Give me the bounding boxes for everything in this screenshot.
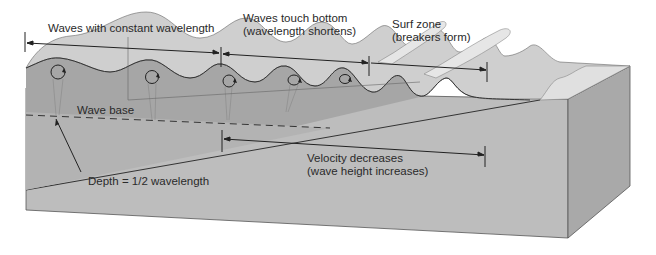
label-touch-bottom-line2: (wavelength shortens) (243, 25, 356, 38)
label-wave-base: Wave base (77, 104, 134, 117)
label-velocity-line1: Velocity decreases (307, 152, 428, 165)
label-velocity: Velocity decreases (wave height increase… (307, 152, 428, 178)
label-surf-zone-line1: Surf zone (392, 18, 471, 31)
label-depth: Depth = 1/2 wavelength (88, 175, 209, 188)
label-surf-zone: Surf zone (breakers form) (392, 18, 471, 44)
label-surf-zone-line2: (breakers form) (392, 31, 471, 44)
wave-diagram (0, 0, 656, 255)
label-touch-bottom: Waves touch bottom (wavelength shortens) (243, 12, 356, 38)
label-constant-wavelength: Waves with constant wavelength (48, 22, 214, 35)
label-velocity-line2: (wave height increases) (307, 165, 428, 178)
label-touch-bottom-line1: Waves touch bottom (243, 12, 356, 25)
